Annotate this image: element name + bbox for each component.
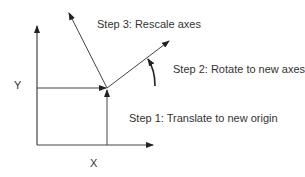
rotated-x-axis	[107, 41, 169, 88]
coordinate-transform-diagram: Y X Step 3: Rescale axes Step 2: Rotate …	[0, 0, 305, 177]
rotation-arc-arrow	[148, 59, 155, 86]
step-2-label: Step 2: Rotate to new axes	[173, 63, 305, 75]
step-1-label: Step 1: Translate to new origin	[129, 112, 278, 124]
y-axis-label: Y	[14, 79, 22, 91]
x-axis-label: X	[90, 157, 98, 169]
step-3-label: Step 3: Rescale axes	[97, 18, 201, 30]
